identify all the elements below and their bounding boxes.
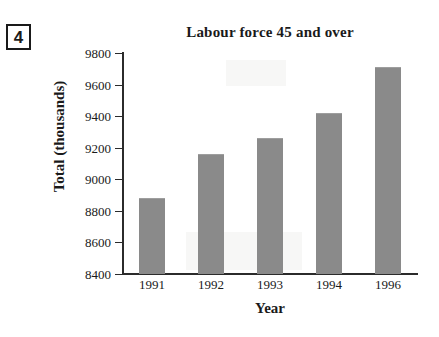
x-axis-title: Year <box>122 300 418 317</box>
y-axis-tick-label: 8800 <box>63 205 111 217</box>
y-axis-tick <box>115 85 122 86</box>
y-axis-tick-label: 9400 <box>63 110 111 122</box>
y-axis-tick <box>115 179 122 180</box>
y-axis-tick <box>115 242 122 243</box>
y-axis-tick-label-text: 8800 <box>63 205 111 218</box>
y-axis-tick-label-text: 9400 <box>63 110 111 123</box>
y-axis-tick-label-text: 9000 <box>63 173 111 186</box>
y-axis-tick-label-text: 9800 <box>63 47 111 60</box>
bar-chart-figure: Labour force 45 and over Total (thousand… <box>0 0 439 337</box>
bar <box>375 67 401 274</box>
x-axis-tick-label: 1993 <box>240 278 300 291</box>
y-axis-tick-label: 9800 <box>63 47 111 59</box>
bar <box>139 198 165 274</box>
y-axis-title: Total (thousands) <box>51 42 68 232</box>
y-axis-tick <box>115 211 122 212</box>
y-axis-tick-label: 9000 <box>63 173 111 185</box>
y-axis-tick-label-text: 8600 <box>63 236 111 249</box>
y-axis-line <box>122 52 124 275</box>
y-axis-tick-label: 9200 <box>63 142 111 154</box>
bar <box>257 138 283 274</box>
bar <box>198 154 224 274</box>
y-axis-tick <box>115 116 122 117</box>
y-axis-tick-label-text: 8400 <box>63 268 111 281</box>
x-axis-tick-label: 1996 <box>358 278 418 291</box>
x-axis-tick-label: 1991 <box>122 278 182 291</box>
y-axis-tick <box>115 53 122 54</box>
scan-artifact <box>226 60 286 86</box>
y-axis-tick-label: 8600 <box>63 236 111 248</box>
y-axis-tick <box>115 274 122 275</box>
x-axis-tick-label: 1994 <box>299 278 359 291</box>
y-axis-tick-label-text: 9600 <box>63 79 111 92</box>
y-axis-tick-label: 8400 <box>63 268 111 280</box>
y-axis-tick-label-text: 9200 <box>63 142 111 155</box>
y-axis-tick-label: 9600 <box>63 79 111 91</box>
x-axis-tick-label: 1992 <box>181 278 241 291</box>
bar <box>316 113 342 274</box>
y-axis-tick <box>115 148 122 149</box>
chart-title: Labour force 45 and over <box>120 24 420 41</box>
